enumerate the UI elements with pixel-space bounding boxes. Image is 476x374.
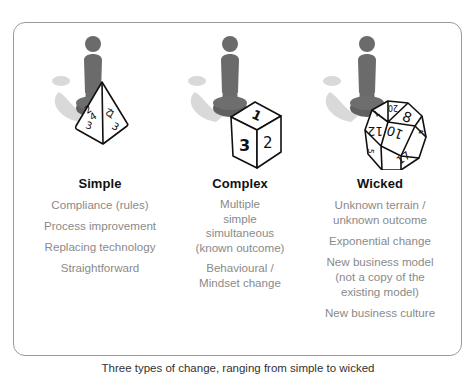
simple-illustration: 2 4 3 1 2 3 (25, 30, 175, 170)
svg-text:2: 2 (263, 134, 273, 152)
list-item: New business model (not a copy of the ex… (305, 254, 455, 299)
list-item: New business culture (305, 305, 455, 320)
wicked-item-list: Unknown terrain / unknown outcome Expone… (305, 197, 455, 326)
wicked-illustration: 20 8 10 12 17 7 4 5 (305, 30, 455, 170)
list-item: Exponential change (305, 233, 455, 248)
column-title-wicked: Wicked (305, 176, 455, 191)
list-item: Unknown terrain / unknown outcome (305, 197, 455, 227)
pawn-with-d6-icon: 1 3 2 (175, 30, 305, 170)
list-item: Behavioural / Mindset change (175, 261, 305, 290)
pawn-with-d4-icon: 2 4 3 1 2 3 (25, 30, 175, 170)
list-item: Multiple simple simultaneous (known outc… (175, 197, 305, 255)
column-title-complex: Complex (175, 176, 305, 191)
complex-item-list: Multiple simple simultaneous (known outc… (175, 197, 305, 297)
figure-caption: Three types of change, ranging from simp… (0, 362, 476, 374)
simple-item-list: Compliance (rules) Process improvement R… (25, 197, 175, 281)
d4-die (76, 82, 128, 144)
pawn-head (85, 36, 101, 52)
column-title-simple: Simple (25, 176, 175, 191)
svg-text:12: 12 (368, 124, 383, 138)
svg-text:20: 20 (388, 103, 398, 112)
pawn-with-d20-icon: 20 8 10 12 17 7 4 5 (305, 30, 455, 170)
pawn-head (222, 36, 238, 52)
svg-text:3: 3 (239, 136, 250, 155)
pawn-head (359, 36, 375, 52)
list-item: Replacing technology (25, 239, 175, 254)
list-item: Compliance (rules) (25, 197, 175, 212)
list-item: Process improvement (25, 218, 175, 233)
complex-illustration: 1 3 2 (175, 30, 305, 170)
list-item: Straightforward (25, 260, 175, 275)
